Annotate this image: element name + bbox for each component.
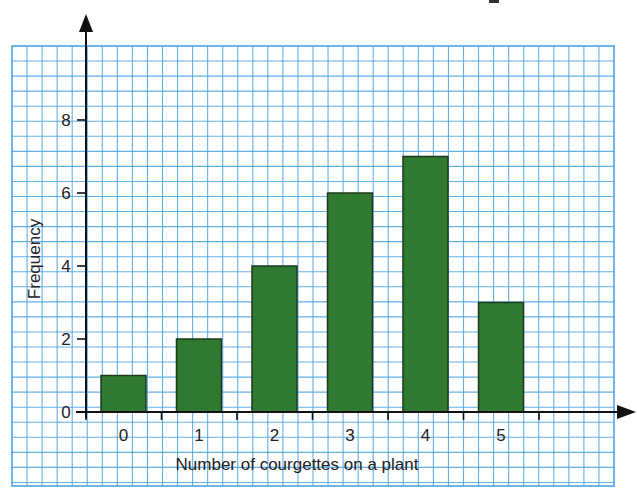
- bar-5: [479, 303, 524, 413]
- bars: [101, 157, 524, 413]
- bar-0: [101, 376, 146, 413]
- x-axis-arrow-icon: [617, 405, 636, 419]
- x-tick-label: 5: [496, 426, 505, 445]
- cropped-title-fragment: [489, 0, 499, 3]
- y-tick-label: 6: [61, 184, 70, 203]
- y-tick-label: 4: [61, 257, 70, 276]
- x-tick-label: 4: [421, 426, 430, 445]
- x-axis-label: Number of courgettes on a plant: [176, 455, 419, 474]
- y-axis-label: Frequency: [25, 218, 44, 299]
- x-tick-label: 2: [270, 426, 279, 445]
- bar-1: [177, 339, 222, 412]
- x-tick-label: 0: [119, 426, 128, 445]
- bar-3: [328, 193, 373, 412]
- y-axis-arrow-icon: [79, 14, 93, 32]
- y-tick-label: 0: [61, 403, 70, 422]
- bar-chart: 02468012345 Frequency Number of courgett…: [0, 0, 637, 490]
- y-tick-label: 8: [61, 111, 70, 130]
- bar-4: [403, 157, 448, 413]
- x-tick-label: 1: [194, 426, 203, 445]
- y-tick-label: 2: [61, 330, 70, 349]
- bar-2: [252, 266, 297, 412]
- x-tick-label: 3: [345, 426, 354, 445]
